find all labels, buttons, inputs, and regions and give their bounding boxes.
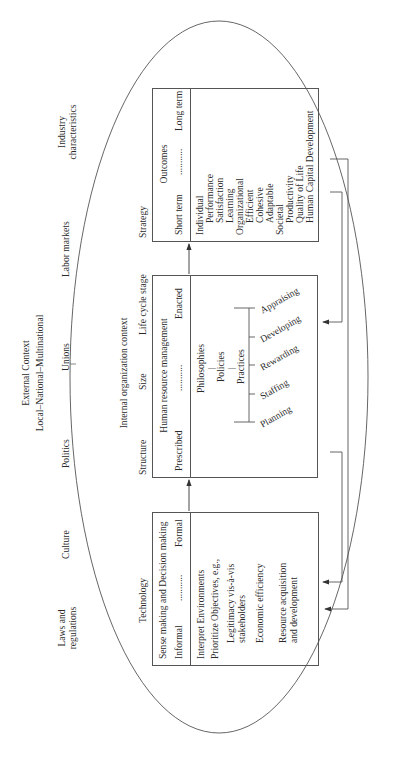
hrm-dots: ........... bbox=[173, 365, 184, 391]
factor-politics: Politics bbox=[60, 439, 71, 468]
internal-context-title: Internal organization context bbox=[118, 293, 129, 453]
outcome-item: Human Capital Development bbox=[304, 111, 315, 223]
external-context-title: External Context bbox=[20, 313, 31, 433]
outcomes-dots: ........... bbox=[173, 149, 184, 175]
internal-factor-strategy: Strategy bbox=[137, 206, 148, 238]
sense-making-right-label: Formal bbox=[173, 519, 184, 547]
outcomes-box: Outcomes Short term ........... Long ter… bbox=[152, 88, 319, 242]
factor-industry: Industry characteristics bbox=[56, 87, 78, 177]
hrm-right-label: Enacted bbox=[173, 288, 184, 319]
sense-making-box: Sense making and Decision making Informa… bbox=[152, 512, 319, 666]
sense-making-left-label: Informal bbox=[173, 625, 184, 659]
sense-item: Prioritize Objectives, e.g., bbox=[209, 559, 220, 659]
sense-making-header: Sense making and Decision making Informa… bbox=[153, 513, 191, 665]
sense-making-dots: ........... bbox=[173, 575, 184, 601]
internal-factor-life-cycle: Life cycle stage bbox=[137, 274, 148, 335]
hrm-practices: Practices bbox=[235, 349, 246, 384]
internal-factor-size: Size bbox=[137, 373, 148, 390]
external-context-subtitle: Local–National–Multinational bbox=[34, 283, 45, 463]
outcomes-right-label: Long term bbox=[173, 91, 184, 131]
feedback-outcomes-to-sense bbox=[325, 159, 348, 609]
factor-unions: Unions bbox=[60, 343, 71, 371]
internal-factor-technology: Technology bbox=[137, 578, 148, 623]
sense-item: stakeholders bbox=[236, 595, 247, 643]
outcomes-header: Outcomes Short term ........... Long ter… bbox=[153, 89, 191, 241]
hrm-policies: Policies bbox=[215, 352, 226, 382]
hrm-box: Human resource management Prescribed ...… bbox=[152, 275, 318, 478]
feedback-hrm-to-sense bbox=[323, 452, 342, 582]
factor-labor-markets: Labor markets bbox=[60, 221, 71, 277]
internal-factor-structure: Structure bbox=[137, 440, 148, 475]
sense-making-title: Sense making and Decision making bbox=[157, 522, 168, 659]
hrm-philosophies: Philosophies bbox=[195, 344, 206, 393]
factor-culture: Culture bbox=[60, 530, 71, 559]
sense-item: Economic efficiency bbox=[254, 564, 265, 643]
hrm-title: Human resource management bbox=[158, 274, 169, 477]
hrm-header: Human resource management Prescribed ...… bbox=[153, 276, 191, 477]
factor-laws: Laws and regulations bbox=[56, 593, 78, 663]
sense-item: Interpret Environments bbox=[195, 570, 206, 659]
outcomes-left-label: Short term bbox=[173, 194, 184, 235]
sense-item: Legitimacy vis-à-vis bbox=[225, 564, 236, 643]
sense-item: Resource acquisition bbox=[277, 563, 288, 643]
sense-item: and development bbox=[288, 577, 299, 643]
feedback-outcomes-to-hrm bbox=[323, 192, 342, 322]
hrm-left-label: Prescribed bbox=[173, 431, 184, 472]
outcomes-title: Outcomes bbox=[158, 87, 169, 241]
hrm-framework-diagram: External Context Local–National–Multinat… bbox=[0, 0, 403, 773]
